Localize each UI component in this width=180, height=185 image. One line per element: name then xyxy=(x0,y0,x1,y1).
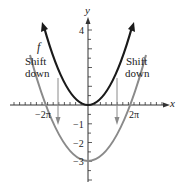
y-tick-neg2: −2 xyxy=(73,138,84,149)
x-tick-neg2pi: −2π xyxy=(35,109,51,120)
x-axis-label: x xyxy=(170,98,175,109)
annotation-right-line1: Shift xyxy=(126,56,147,67)
y-tick-neg3: −3 xyxy=(73,156,84,167)
x-axis-arrow-icon xyxy=(163,103,170,108)
curve-label-f: f xyxy=(37,42,40,53)
f-right-arrow-icon xyxy=(128,22,135,32)
y-axis-arrow-icon xyxy=(86,17,91,24)
y-axis-label: y xyxy=(85,5,90,16)
shift-arrow-left xyxy=(56,78,61,125)
annotation-left-line1: Shift xyxy=(25,56,46,67)
annotation-right-line2: down xyxy=(125,68,149,79)
down-arrow-icon xyxy=(56,117,61,125)
annotation-left-line2: down xyxy=(25,68,49,79)
f-left-arrow-icon xyxy=(41,22,48,32)
graph-canvas xyxy=(0,0,180,185)
shift-arrow-right xyxy=(115,78,120,125)
down-arrow-icon xyxy=(115,117,120,125)
y-tick-neg1: −1 xyxy=(73,119,84,130)
y-tick-4: 4 xyxy=(79,25,84,36)
x-tick-2pi: 2π xyxy=(129,109,139,120)
y-axis xyxy=(86,17,93,182)
